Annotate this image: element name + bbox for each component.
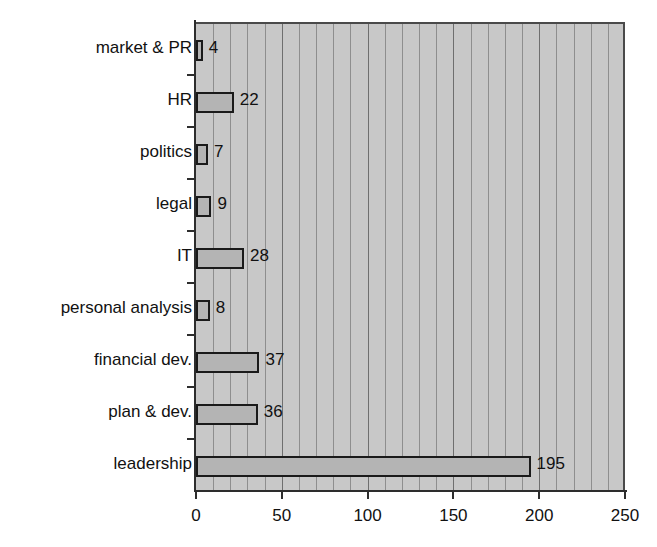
x-axis-tick-label: 50	[272, 506, 291, 525]
category-label: HR	[0, 91, 192, 108]
bar	[196, 352, 259, 373]
x-axis-tick	[367, 490, 369, 499]
y-axis-tick	[187, 126, 195, 128]
category-label: financial dev.	[0, 351, 192, 368]
bar	[196, 404, 258, 425]
category-label: legal	[0, 195, 192, 212]
x-axis-tick-label: 0	[191, 506, 200, 525]
x-axis-tick	[538, 490, 540, 499]
x-axis-tick	[624, 490, 626, 499]
x-axis-tick	[195, 490, 197, 499]
category-label: IT	[0, 247, 192, 264]
category-label: market & PR	[0, 39, 192, 56]
bar	[196, 300, 210, 321]
x-axis-tick	[281, 490, 283, 499]
x-axis-tick-label: 200	[525, 506, 553, 525]
x-axis-tick-label: 150	[439, 506, 467, 525]
plot-area	[196, 22, 625, 490]
bar	[196, 92, 234, 113]
category-label: leadership	[0, 455, 192, 472]
y-axis-tick	[187, 438, 195, 440]
bar-chart: market & PRHRpoliticslegalITpersonal ana…	[0, 0, 657, 547]
y-axis-tick	[187, 334, 195, 336]
x-axis-spine	[194, 490, 627, 492]
category-axis: market & PRHRpoliticslegalITpersonal ana…	[0, 22, 192, 490]
category-label: plan & dev.	[0, 403, 192, 420]
bar	[196, 248, 244, 269]
category-label: personal analysis	[0, 299, 192, 316]
y-axis-tick	[187, 386, 195, 388]
y-axis-tick	[187, 282, 195, 284]
x-axis-tick	[452, 490, 454, 499]
y-axis-tick	[187, 178, 195, 180]
y-axis-spine	[194, 20, 196, 492]
bar	[196, 144, 208, 165]
x-axis-tick-label: 250	[611, 506, 639, 525]
category-label: politics	[0, 143, 192, 160]
bar	[196, 196, 211, 217]
y-axis-tick	[187, 74, 195, 76]
bar	[196, 456, 531, 477]
bar	[196, 40, 203, 61]
bar-series	[196, 24, 623, 490]
x-axis-tick-label: 100	[353, 506, 381, 525]
y-axis-tick	[187, 230, 195, 232]
